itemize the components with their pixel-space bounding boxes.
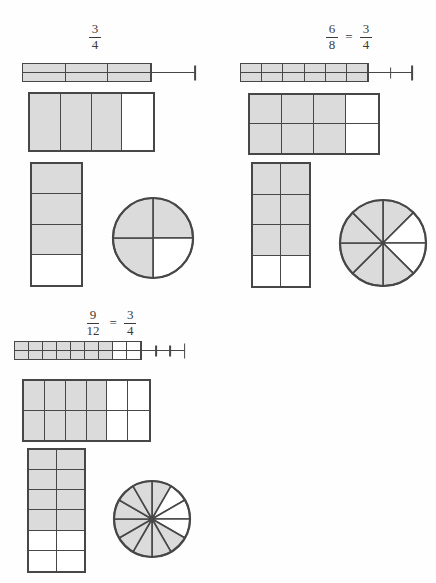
grid-cell (32, 255, 81, 285)
grid-cell (92, 94, 123, 150)
fraction: 6 8 (326, 22, 339, 53)
grid-cell (29, 531, 57, 551)
tick-mark (194, 65, 196, 80)
horizontal-grid (248, 93, 380, 155)
grid-cell (281, 195, 309, 226)
bar-box (22, 63, 152, 82)
denominator: 4 (124, 324, 137, 339)
denominator: 4 (89, 38, 102, 53)
number-line-bar (240, 63, 412, 82)
grid-cell (253, 195, 281, 226)
tick-mark (184, 343, 186, 358)
grid-cell (29, 490, 57, 510)
fraction-label-nine-twelfths: 9 12 = 3 4 (50, 308, 170, 339)
grid-cell (282, 95, 314, 124)
numerator: 9 (87, 308, 100, 324)
grid-cell (346, 95, 378, 124)
grid-cell (128, 411, 149, 441)
fraction: 3 4 (124, 308, 137, 339)
grid-cell (45, 411, 66, 441)
grid-cell (29, 450, 57, 470)
grid-cell (29, 510, 57, 530)
equals-sign: = (344, 29, 353, 45)
grid-cell (29, 551, 57, 571)
vertical-grid (30, 162, 83, 287)
denominator: 12 (84, 324, 103, 339)
numerator: 3 (360, 22, 373, 38)
denominator: 8 (326, 38, 339, 53)
number-line (152, 72, 195, 74)
grid-cell (66, 411, 87, 441)
grid-cell (57, 450, 85, 470)
bar-midline (15, 350, 141, 352)
grid-cell (57, 510, 85, 530)
fraction-label-six-eighths: 6 8 = 3 4 (289, 22, 409, 53)
grid-cell (253, 164, 281, 195)
grid-cell (61, 94, 92, 150)
numerator: 3 (89, 22, 102, 38)
grid-cell (32, 164, 81, 194)
grid-cell (253, 256, 281, 287)
fraction: 3 4 (360, 22, 373, 53)
equals-sign: = (109, 315, 118, 331)
numerator: 3 (124, 308, 137, 324)
fraction-circle (111, 478, 193, 560)
fraction-label-three-fourths: 3 4 (35, 22, 155, 53)
numerator: 6 (326, 22, 339, 38)
bar-box (14, 341, 142, 360)
tick-mark (411, 65, 413, 80)
grid-cell (107, 381, 128, 411)
grid-cell (250, 124, 282, 153)
fraction: 9 12 (84, 308, 103, 339)
grid-cell (57, 551, 85, 571)
number-line-bar (22, 63, 195, 82)
grid-cell (107, 411, 128, 441)
grid-cell (32, 194, 81, 224)
tick-mark (155, 345, 157, 356)
grid-cell (32, 225, 81, 255)
grid-cell (24, 411, 45, 441)
grid-cell (282, 124, 314, 153)
grid-cell (122, 94, 153, 150)
fraction-circle (337, 197, 429, 289)
grid-cell (57, 490, 85, 510)
grid-cell (128, 381, 149, 411)
grid-cell (87, 411, 108, 441)
grid-cell (281, 256, 309, 287)
grid-cell (57, 470, 85, 490)
horizontal-grid (28, 92, 155, 152)
grid-cell (346, 124, 378, 153)
bar-midline (241, 72, 368, 74)
grid-cell (87, 381, 108, 411)
number-line-bar (14, 341, 185, 360)
bar-box (240, 63, 369, 82)
grid-cell (281, 225, 309, 256)
fraction: 3 4 (89, 22, 102, 53)
grid-cell (24, 381, 45, 411)
denominator: 4 (360, 38, 373, 53)
vertical-grid (27, 448, 86, 573)
grid-cell (250, 95, 282, 124)
grid-cell (314, 95, 346, 124)
grid-cell (314, 124, 346, 153)
grid-cell (57, 531, 85, 551)
tick-mark (170, 345, 172, 356)
fraction-equivalence-figure: 3 4 6 8 = 3 4 9 12 = 3 4 (0, 0, 436, 583)
vertical-grid (251, 162, 311, 288)
grid-cell (66, 381, 87, 411)
tick-mark (390, 67, 392, 78)
grid-cell (45, 381, 66, 411)
grid-cell (253, 225, 281, 256)
grid-cell (29, 470, 57, 490)
fraction-circle (110, 195, 196, 281)
bar-midline (23, 72, 151, 74)
number-line (142, 350, 185, 352)
horizontal-grid (22, 379, 151, 442)
grid-cell (30, 94, 61, 150)
grid-cell (281, 164, 309, 195)
